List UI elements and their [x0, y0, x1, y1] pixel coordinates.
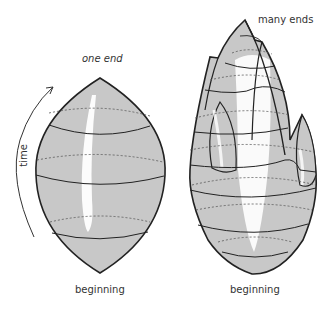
right-beginning-label: beginning — [230, 284, 280, 295]
diagram-canvas — [0, 0, 335, 314]
left-universe-shape — [36, 78, 165, 273]
many-ends-label: many ends — [258, 14, 313, 25]
one-end-label: one end — [82, 53, 123, 64]
time-axis-label: time — [18, 144, 29, 167]
right-universe-shape — [190, 20, 316, 274]
left-beginning-label: beginning — [75, 284, 125, 295]
